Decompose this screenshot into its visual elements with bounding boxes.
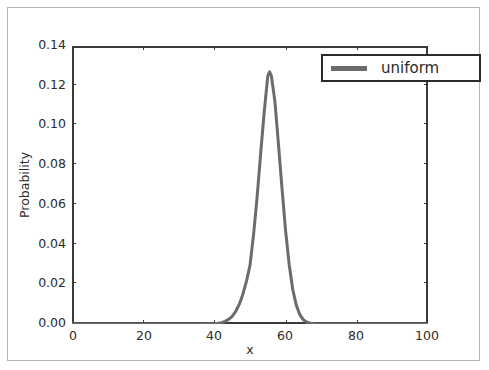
x-tick-label: 60 bbox=[277, 328, 293, 343]
legend-label: uniform bbox=[381, 61, 439, 76]
x-tick-label: 80 bbox=[348, 328, 364, 343]
x-tick-label: 100 bbox=[415, 328, 439, 343]
x-tick-label: 40 bbox=[206, 328, 222, 343]
series-plot bbox=[72, 46, 428, 324]
plot-area: uniform bbox=[72, 46, 428, 324]
x-tick-label: 20 bbox=[136, 328, 152, 343]
x-axis-label: x bbox=[246, 342, 253, 357]
legend: uniform bbox=[321, 54, 481, 82]
series-line-uniform bbox=[72, 72, 428, 324]
y-axis-label: Probability bbox=[17, 152, 32, 218]
legend-line-swatch bbox=[331, 66, 367, 71]
figure-canvas: 0.14 0.12 0.10 0.08 0.06 0.04 0.02 0.00 … bbox=[0, 0, 489, 370]
x-tick-label: 0 bbox=[69, 328, 77, 343]
